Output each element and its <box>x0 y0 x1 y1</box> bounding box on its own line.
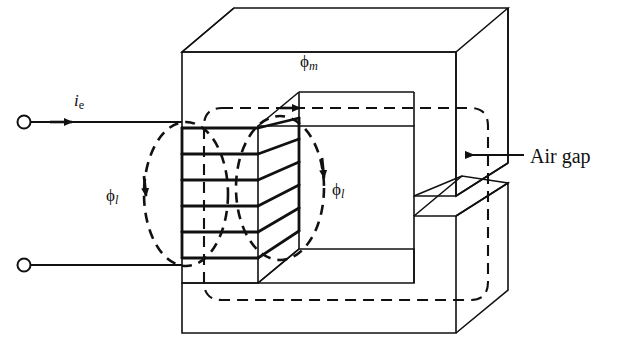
main-flux-path <box>204 108 488 300</box>
terminal-bottom <box>18 259 31 272</box>
terminal-top <box>18 116 31 129</box>
current-label: ie <box>74 91 84 113</box>
coil-turn-back-4 <box>258 185 299 206</box>
leakage-right-subscript: l <box>341 187 344 201</box>
leakage-right-symbol: ϕ <box>332 180 341 199</box>
core-front-lower <box>182 216 456 333</box>
leakage-flux-right-loop <box>236 116 324 260</box>
air-gap-label: Air gap <box>530 145 591 168</box>
main-flux-subscript: m <box>309 59 318 73</box>
leakage-flux-left-arrow <box>144 176 146 196</box>
main-flux-label: ϕm <box>300 52 318 74</box>
core-top-face <box>182 8 508 52</box>
coil-turn-back-5 <box>258 208 299 232</box>
core-body <box>182 8 508 333</box>
coil-turn-back-3 <box>258 162 299 180</box>
figure-canvas: ϕm ϕl ϕl ie Air gap <box>0 0 640 359</box>
coil-turn-back-2 <box>258 139 299 154</box>
core-left-limb-top-edge <box>182 8 234 52</box>
core-lower-right-face <box>456 183 508 333</box>
core-window-bottom-face <box>258 249 414 283</box>
coil-winding <box>182 118 299 258</box>
leakage-left-subscript: l <box>115 193 118 207</box>
leakage-left-symbol: ϕ <box>106 186 115 205</box>
leakage-flux-right-label: ϕl <box>332 180 344 202</box>
core-gap-upper-lip <box>456 163 508 196</box>
magnetic-circuit-diagram <box>0 0 640 359</box>
lead-wires <box>28 122 182 265</box>
leakage-flux-right-arrow <box>322 158 324 178</box>
leakage-flux-left-label: ϕl <box>106 186 118 208</box>
main-flux-symbol: ϕ <box>300 52 309 71</box>
current-subscript: e <box>79 98 84 112</box>
leakage-flux-left-loop <box>144 122 228 266</box>
core-gap-lower-lip <box>414 176 462 196</box>
main-flux-loop <box>204 108 488 300</box>
